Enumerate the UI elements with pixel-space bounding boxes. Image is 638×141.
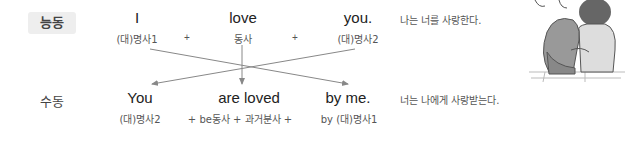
- passive-voice-label: 수동: [28, 91, 76, 110]
- couple-sitting-together-icon: [525, 0, 635, 82]
- passive-word-subject: You: [127, 89, 152, 106]
- passive-word-agent: by me.: [325, 89, 370, 106]
- passive-translation: 너는 나에게 사랑받는다.: [400, 92, 500, 107]
- passive-word-verb: are loved: [218, 89, 280, 106]
- passive-part-subject: (대)명사2: [119, 111, 160, 126]
- passive-part-agent: by (대)명사1: [321, 111, 378, 126]
- passive-part-verb: + be동사 + 과거분사 +: [188, 111, 292, 126]
